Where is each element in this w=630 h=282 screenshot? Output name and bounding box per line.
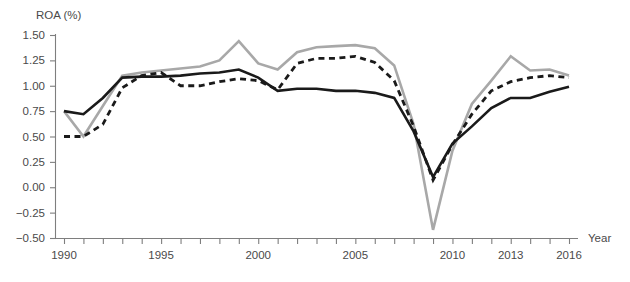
chart-svg: 1.501.251.000.750.500.250.00−0.25−0.50 1… (0, 0, 630, 282)
y-tick-label: −0.50 (16, 232, 45, 244)
roa-line-chart: 1.501.251.000.750.500.250.00−0.25−0.50 1… (0, 0, 630, 282)
x-tick-label: 2013 (498, 249, 524, 261)
data-series-group (64, 41, 569, 230)
x-axis-title: Year (588, 232, 611, 244)
y-tick-label: 1.50 (23, 29, 45, 41)
y-tick-label: 0.75 (23, 105, 45, 117)
x-tick-label: 2016 (556, 249, 582, 261)
x-axis-tick-labels: 1990199520002005201020132016 (51, 249, 582, 261)
y-axis-tick-labels: 1.501.251.000.750.500.250.00−0.25−0.50 (16, 29, 45, 244)
x-tick-label: 2000 (245, 249, 271, 261)
y-tick-label: 0.00 (23, 181, 45, 193)
series-black-dashed (64, 56, 569, 180)
x-tick-label: 2005 (343, 249, 369, 261)
y-tick-label: 1.00 (23, 80, 45, 92)
x-axis-tick-marks (65, 239, 570, 245)
y-tick-label: 1.25 (23, 54, 45, 66)
x-tick-label: 1990 (51, 249, 77, 261)
series-black-solid (64, 70, 569, 178)
y-axis-title: ROA (%) (36, 9, 82, 21)
y-tick-label: 0.50 (23, 131, 45, 143)
x-tick-label: 2010 (440, 249, 466, 261)
y-tick-label: −0.25 (16, 207, 45, 219)
x-tick-label: 1995 (148, 249, 174, 261)
series-gray-solid (64, 41, 569, 230)
y-tick-label: 0.25 (23, 156, 45, 168)
